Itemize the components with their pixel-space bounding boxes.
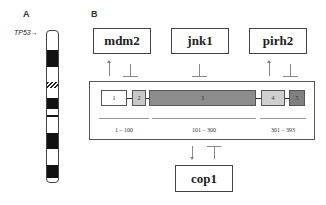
p53-protein-structure: 1 2 3 4 5 1 – 100 101 – 300 301 – 393 xyxy=(89,81,315,140)
chromosome-band xyxy=(47,98,58,109)
range-line-3 xyxy=(260,118,306,119)
domain-1: 1 xyxy=(101,90,127,106)
range-line-1 xyxy=(99,118,149,119)
chromosome-band xyxy=(47,115,58,117)
arrow-right-icon: → xyxy=(31,29,38,36)
inhibition-line xyxy=(130,64,131,76)
panel-b-label: B xyxy=(91,9,98,19)
inhibition-line xyxy=(214,146,215,159)
chromosome-band-hatched xyxy=(47,82,58,88)
inhibition-bar-icon xyxy=(283,76,298,77)
activation-arrow-icon xyxy=(269,61,270,76)
domain-5: 5 xyxy=(289,90,305,106)
range-line-2 xyxy=(152,118,256,119)
panel-a-label: A xyxy=(23,9,30,19)
inhibition-line xyxy=(199,64,200,76)
domain-4: 4 xyxy=(261,90,285,106)
tp53-label-text: TP53 xyxy=(14,29,31,36)
activation-arrow-icon xyxy=(109,61,110,76)
range-label-3: 301 – 393 xyxy=(260,127,306,133)
chromosome-band xyxy=(47,50,58,67)
chromosome-band xyxy=(47,133,58,149)
chromosome-band xyxy=(47,165,58,178)
domain-2: 2 xyxy=(132,90,146,106)
range-label-1: 1 – 100 xyxy=(99,127,149,133)
domain-3: 3 xyxy=(149,90,256,106)
pirh2-box: pirh2 xyxy=(249,28,307,54)
jnk1-box: jnk1 xyxy=(171,28,229,54)
range-label-2: 101 – 300 xyxy=(152,127,256,133)
inhibition-line xyxy=(290,64,291,76)
activation-arrow-icon xyxy=(192,146,193,159)
inhibition-bar-icon xyxy=(123,76,138,77)
cop1-box: cop1 xyxy=(175,165,233,192)
tp53-gene-label: TP53→ xyxy=(14,29,38,36)
inhibition-bar-icon xyxy=(192,76,207,77)
mdm2-box: mdm2 xyxy=(93,28,151,54)
chromosome-17 xyxy=(46,30,59,183)
